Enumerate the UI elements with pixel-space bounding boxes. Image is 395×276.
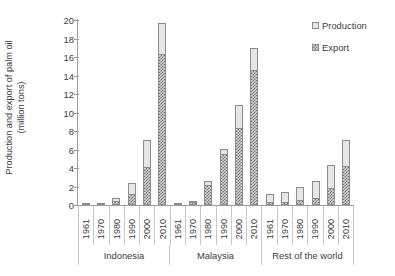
bar-group[interactable]	[128, 20, 136, 205]
y-axis-title-line2: (million tons)	[15, 40, 27, 174]
bar-export[interactable]	[312, 198, 320, 205]
y-axis-tick-labels: 02468101214161820	[52, 0, 74, 215]
legend: Production Export	[312, 20, 392, 64]
legend-item-export: Export	[312, 42, 392, 53]
x-tick-label: 2010	[341, 216, 351, 242]
x-tick-label: 1961	[265, 216, 275, 242]
y-tick-label: 10	[64, 107, 74, 118]
x-axis-year-cell: 2010	[247, 206, 262, 245]
legend-label-production: Production	[322, 20, 367, 31]
x-axis-year-cell: 1980	[293, 206, 308, 245]
legend-label-export: Export	[322, 42, 349, 53]
x-tick-label: 2000	[326, 216, 336, 242]
x-axis-group-label: Rest of the world	[262, 245, 354, 265]
x-axis-year-cell: 1970	[94, 206, 109, 245]
x-tick-label: 2010	[158, 216, 168, 242]
x-axis-year-labels: 1961197019801990200020101961197019801990…	[78, 206, 354, 245]
bar-export[interactable]	[128, 194, 136, 205]
bar-group[interactable]	[82, 20, 90, 205]
production-swatch-icon	[312, 22, 319, 29]
x-axis-year-cell: 1970	[278, 206, 293, 245]
x-tick-label: 2010	[249, 216, 259, 242]
x-axis-year-cell: 2010	[339, 206, 354, 245]
y-tick-label: 16	[64, 52, 74, 63]
x-axis-year-cell: 1961	[171, 206, 186, 245]
legend-item-production: Production	[312, 20, 392, 31]
y-axis-title: Production and export of palm oil (milli…	[0, 0, 30, 215]
bar-group[interactable]	[204, 20, 212, 205]
x-tick-label: 1961	[173, 216, 183, 242]
x-tick-label: 1990	[219, 216, 229, 242]
x-tick-label: 1990	[310, 216, 320, 242]
bar-export[interactable]	[281, 202, 289, 205]
bar-export[interactable]	[235, 128, 243, 205]
bar-group[interactable]	[189, 20, 197, 205]
x-axis-group-label: Indonesia	[78, 245, 170, 265]
bar-group[interactable]	[143, 20, 151, 205]
x-tick-label: 1970	[96, 216, 106, 242]
x-tick-label: 1980	[295, 216, 305, 242]
x-axis-year-cell: 1990	[308, 206, 323, 245]
bar-group[interactable]	[158, 20, 166, 205]
x-tick-label: 1970	[188, 216, 198, 242]
x-tick-label: 1970	[280, 216, 290, 242]
x-axis-year-cell: 1961	[78, 206, 94, 245]
x-tick-label: 2000	[234, 216, 244, 242]
bar-export[interactable]	[112, 201, 120, 205]
bar-export[interactable]	[174, 203, 182, 205]
x-axis-year-cell: 1970	[186, 206, 201, 245]
bar-export[interactable]	[82, 203, 90, 205]
bar-export[interactable]	[97, 203, 105, 205]
x-axis-year-cell: 1961	[262, 206, 277, 245]
bar-export[interactable]	[342, 166, 350, 205]
y-axis-title-line1: Production and export of palm oil	[4, 40, 16, 174]
bar-group[interactable]	[220, 20, 228, 205]
bar-group[interactable]	[296, 20, 304, 205]
x-axis-year-cell: 2010	[155, 206, 170, 245]
x-axis-year-cell: 1980	[201, 206, 216, 245]
bar-export[interactable]	[220, 154, 228, 205]
x-tick-label: 1980	[203, 216, 213, 242]
bar-group[interactable]	[174, 20, 182, 205]
bar-export[interactable]	[296, 200, 304, 205]
x-tick-label: 2000	[142, 216, 152, 242]
bar-group[interactable]	[266, 20, 274, 205]
bar-group[interactable]	[281, 20, 289, 205]
bar-export[interactable]	[250, 70, 258, 205]
bar-export[interactable]	[204, 185, 212, 205]
x-axis-year-cell: 2000	[324, 206, 339, 245]
bar-group[interactable]	[97, 20, 105, 205]
x-tick-label: 1990	[127, 216, 137, 242]
y-tick-label: 20	[64, 15, 74, 26]
x-axis-year-cell: 1990	[125, 206, 140, 245]
y-tick-label: 14	[64, 70, 74, 81]
bar-export[interactable]	[266, 202, 274, 205]
x-axis-year-cell: 1980	[110, 206, 125, 245]
y-tick-label: 12	[64, 89, 74, 100]
x-axis-year-cell: 2000	[140, 206, 155, 245]
x-axis-year-cell: 1990	[217, 206, 232, 245]
bar-export[interactable]	[327, 188, 335, 205]
x-axis-group-labels: IndonesiaMalaysiaRest of the world	[78, 245, 354, 265]
bar-group[interactable]	[112, 20, 120, 205]
x-tick-label: 1980	[112, 216, 122, 242]
y-tick-label: 18	[64, 33, 74, 44]
x-axis-group-label: Malaysia	[170, 245, 262, 265]
palm-oil-bar-chart: Production and export of palm oil (milli…	[0, 0, 395, 276]
export-swatch-icon	[312, 44, 319, 51]
bar-export[interactable]	[158, 54, 166, 205]
bar-group[interactable]	[235, 20, 243, 205]
bar-export[interactable]	[143, 167, 151, 205]
bar-group[interactable]	[250, 20, 258, 205]
x-tick-label: 1961	[81, 216, 91, 242]
bar-export[interactable]	[189, 202, 197, 205]
x-axis-year-cell: 2000	[232, 206, 247, 245]
